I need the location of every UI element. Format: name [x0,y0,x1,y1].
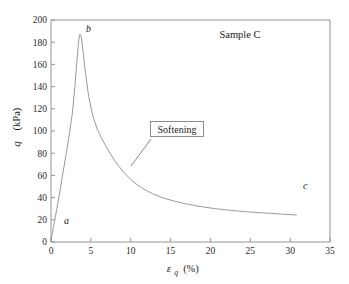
point-label-b: b [86,23,91,34]
softening-leader-line [131,139,151,166]
point-label-c: c [303,180,308,191]
sample-label: Sample C [219,29,260,40]
y-tick-label-180: 180 [33,38,48,48]
point-label-a: a [64,215,69,226]
softening-label: Softening [158,124,197,135]
chart-figure: 0 20 40 60 80 100 120 140 160 180 200 0 [0,0,349,284]
y-axis-ticks [51,20,55,242]
y-tick-label-140: 140 [33,82,48,92]
y-axis-symbol: q [10,141,22,147]
y-tick-label-160: 160 [33,60,48,70]
y-tick-label-60: 60 [38,171,48,181]
data-series-group [51,34,297,239]
y-tick-label-100: 100 [33,126,48,136]
x-tick-label-15: 15 [166,246,176,256]
x-axis-symbol: ε [167,262,172,274]
y-tick-label-0: 0 [42,237,47,247]
x-tick-label-30: 30 [285,246,295,256]
stress-strain-chart: 0 20 40 60 80 100 120 140 160 180 200 0 [0,0,349,284]
y-axis-tick-labels: 0 20 40 60 80 100 120 140 160 180 200 [33,15,48,247]
softening-callout: Softening [131,122,204,167]
y-tick-label-200: 200 [33,15,48,25]
y-tick-label-40: 40 [38,193,48,203]
x-tick-label-35: 35 [325,246,335,256]
y-axis-unit: (kPa) [11,107,23,130]
y-tick-label-80: 80 [38,149,48,159]
x-tick-label-0: 0 [49,246,54,256]
x-axis-unit: (%) [183,263,199,275]
x-tick-label-25: 25 [246,246,256,256]
y-tick-label-120: 120 [33,104,48,114]
x-axis-tick-labels: 0 5 10 15 20 25 30 35 [49,246,335,256]
x-tick-label-10: 10 [126,246,136,256]
y-axis-title: q (kPa) [10,107,23,147]
stress-strain-curve [51,34,297,239]
y-tick-label-20: 20 [38,215,48,225]
x-axis-subscript: q [174,268,178,277]
x-tick-label-5: 5 [88,246,93,256]
x-tick-label-20: 20 [206,246,216,256]
x-axis-title: ε q (%) [167,262,200,277]
x-axis-ticks [51,238,330,242]
